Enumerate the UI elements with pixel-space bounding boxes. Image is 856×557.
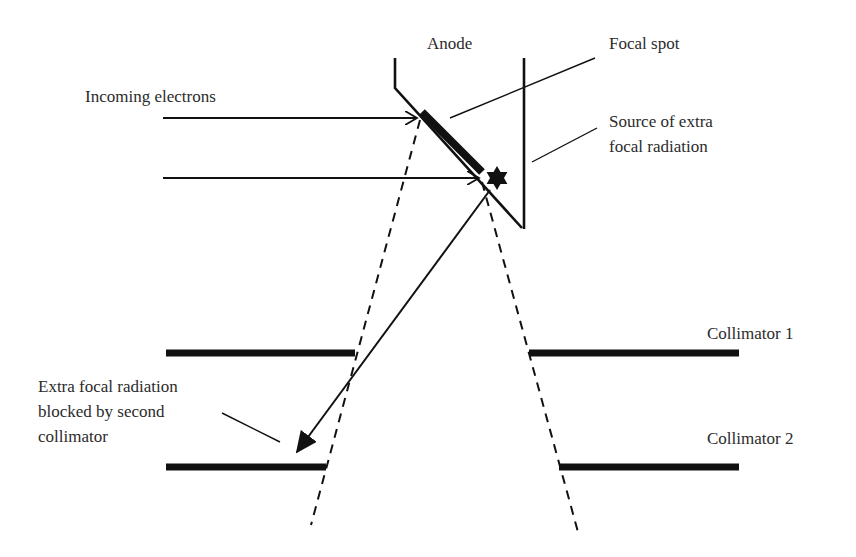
label-collimator-1: Collimator 1 <box>707 322 793 346</box>
label-collimator-2: Collimator 2 <box>707 427 793 451</box>
beam-edge-right-dashed <box>482 182 578 532</box>
extra-focal-leader-line <box>222 413 280 442</box>
label-source-line-2: focal radiation <box>609 135 713 159</box>
label-incoming-electrons: Incoming electrons <box>85 85 216 109</box>
label-source-line-1: Source of extra <box>609 110 713 134</box>
label-focal-spot: Focal spot <box>609 32 679 56</box>
beam-edge-left-dashed <box>311 120 420 525</box>
label-extra-focal-line-2: blocked by second <box>38 400 178 424</box>
label-extra-focal-line-1: Extra focal radiation <box>38 375 178 399</box>
xray-tube-diagram <box>0 0 856 557</box>
focal-spot-leader-line <box>450 58 595 118</box>
star-icon <box>487 166 508 190</box>
focal-spot-bar <box>422 112 482 172</box>
source-leader-line <box>532 128 597 162</box>
label-extra-focal-line-3: collimator <box>38 425 178 449</box>
label-extra-focal-blocked: Extra focal radiation blocked by second … <box>38 375 178 449</box>
extra-focal-ray-arrow <box>297 190 490 452</box>
label-source-extra-focal: Source of extra focal radiation <box>609 110 713 159</box>
label-anode: Anode <box>427 32 472 56</box>
